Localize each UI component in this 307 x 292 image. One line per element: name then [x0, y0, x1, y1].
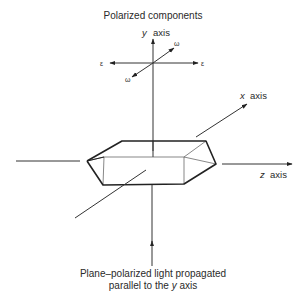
crystal-polarization-diagram: Polarized components y axis ε ε ω ω x ax…: [0, 0, 307, 292]
figure-title: Polarized components: [104, 10, 203, 21]
caption-line-1: Plane–polarized light propagated: [80, 268, 226, 279]
omega-upper-label: ω: [174, 40, 180, 47]
svg-text:axis: axis: [250, 90, 267, 101]
epsilon-left-label: ε: [100, 60, 103, 67]
svg-text:axis: axis: [153, 27, 170, 38]
x-axis-label: x axis: [239, 90, 267, 101]
crystal-front-face: [103, 157, 184, 185]
caption-line-2: parallel to the y axis: [109, 280, 197, 291]
omega-lower-label: ω: [125, 76, 131, 83]
crystal: [87, 141, 216, 185]
epsilon-right-label: ε: [201, 60, 204, 67]
y-axis-label: y axis: [141, 27, 170, 38]
svg-text:z: z: [259, 169, 265, 180]
omega-upper-arrow: [153, 48, 174, 63]
z-axis-label: z axis: [259, 169, 287, 180]
x-axis-arrow: [196, 104, 247, 137]
svg-text:x: x: [239, 90, 246, 101]
omega-lower-arrow: [132, 63, 153, 77]
polarized-components-cross: ε ε ω ω: [100, 39, 204, 98]
svg-text:y: y: [141, 27, 148, 38]
svg-text:axis: axis: [270, 169, 287, 180]
